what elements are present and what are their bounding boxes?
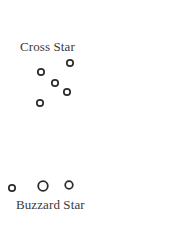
buzzard-star-label: Buzzard Star — [16, 197, 85, 213]
chart-background — [0, 0, 177, 227]
cross-star-label: Cross Star — [20, 39, 75, 55]
star-chart — [0, 0, 177, 227]
